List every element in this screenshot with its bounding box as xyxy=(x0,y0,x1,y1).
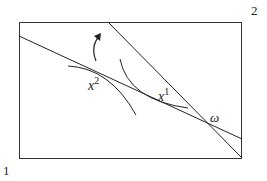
indifference-curve-x2 xyxy=(68,66,136,115)
arrow-head-icon xyxy=(94,33,101,41)
point-label-omega: ω xyxy=(210,110,219,125)
indifference-curve-x1 xyxy=(120,59,188,108)
edgeworth-box-diagram: x2 x1 ω 2 1 xyxy=(0,0,267,181)
point-label-x2: x2 xyxy=(87,75,99,93)
budget-line-steep xyxy=(108,22,242,158)
corner-label-2: 2 xyxy=(251,3,258,18)
edgeworth-box xyxy=(20,23,242,159)
point-label-x1: x1 xyxy=(157,86,169,104)
corner-label-1: 1 xyxy=(3,163,10,178)
